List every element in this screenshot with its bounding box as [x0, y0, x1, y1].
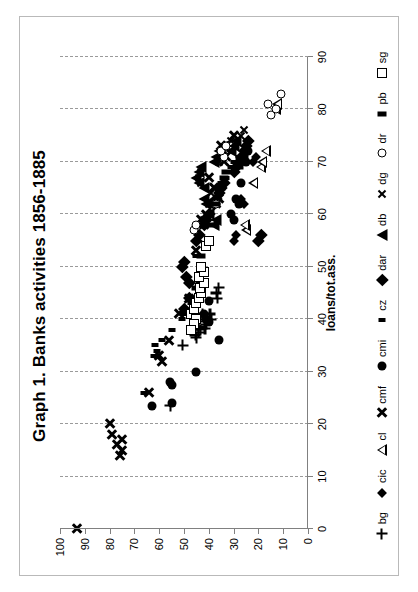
data-point-sg — [194, 293, 204, 303]
data-point-sg — [196, 288, 206, 298]
data-point-cz — [235, 155, 242, 159]
heavy-x-icon — [375, 407, 388, 420]
data-point-cmi — [167, 380, 176, 389]
data-point-dg — [219, 146, 229, 156]
x-axis-tick — [308, 318, 313, 319]
plus-icon — [375, 527, 388, 540]
data-point-dar — [203, 208, 215, 220]
y-axis-tick — [283, 529, 284, 534]
data-point-pb — [242, 149, 251, 154]
data-point-cmf — [218, 156, 230, 168]
filled-diamond-icon — [375, 274, 388, 287]
data-point-cz — [193, 254, 200, 258]
legend-label: cz — [376, 300, 388, 311]
data-point-dar — [242, 135, 254, 147]
data-point-db — [196, 161, 207, 173]
data-point-cic — [229, 236, 239, 246]
data-point-dr — [264, 100, 273, 109]
thin-x-icon — [375, 188, 388, 201]
data-point-dar — [198, 219, 210, 231]
data-point-cl — [240, 219, 250, 231]
x-axis-tick — [308, 528, 313, 529]
data-point-cz — [141, 391, 148, 395]
data-point-bg — [206, 314, 217, 325]
data-point-bg — [212, 293, 223, 304]
data-point-pb — [192, 285, 201, 290]
data-point-dr — [219, 152, 228, 161]
legend-item-pb[interactable]: pb — [375, 92, 388, 120]
open-triangle-icon — [375, 444, 388, 457]
legend-item-cz[interactable]: cz — [375, 300, 388, 327]
data-point-dr — [212, 199, 221, 208]
data-point-pb — [222, 170, 231, 175]
data-point-cz — [228, 165, 235, 169]
data-point-sg — [194, 272, 204, 282]
data-point-cmf — [215, 140, 227, 152]
data-point-db — [191, 172, 202, 184]
data-point-dar — [238, 145, 250, 157]
data-point-cmi — [234, 199, 243, 208]
data-point-db — [208, 219, 219, 231]
data-point-dg — [239, 125, 249, 135]
data-point-cmi — [214, 336, 223, 345]
legend-item-db[interactable]: db — [375, 214, 388, 242]
data-point-cmf — [111, 439, 123, 451]
x-axis-tick — [308, 108, 313, 109]
legend-label: dg — [376, 172, 388, 184]
data-point-cmf — [200, 208, 212, 220]
legend-item-dar[interactable]: dar — [375, 255, 388, 287]
gridline — [60, 161, 308, 162]
legend-item-sg[interactable]: sg — [375, 52, 388, 80]
data-point-cmf — [183, 292, 195, 304]
y-axis-tick — [209, 529, 210, 534]
data-point-cz — [181, 312, 188, 316]
data-point-cic — [248, 157, 258, 167]
y-axis-tick — [234, 529, 235, 534]
legend-item-cic[interactable]: cic — [375, 470, 388, 499]
chart-frame: Graph 1. Banks activities 1856-1885 0102… — [19, 16, 399, 576]
y-axis-tick-label: 20 — [252, 538, 264, 550]
data-point-dar — [183, 292, 195, 304]
y-axis-tick — [110, 529, 111, 534]
x-axis-title: loans/tot.ass. — [324, 57, 338, 529]
data-point-dar — [230, 161, 242, 173]
data-point-cmi — [167, 399, 176, 408]
y-axis-tick-label: 30 — [228, 538, 240, 550]
legend-label: bg — [376, 512, 388, 524]
y-axis-tick-label: 10 — [277, 538, 289, 550]
legend-item-cl[interactable]: cl — [375, 433, 388, 457]
legend-label: cmi — [376, 340, 388, 357]
data-point-pb — [197, 254, 206, 259]
data-point-cmi — [166, 378, 175, 387]
data-point-pb — [212, 201, 221, 206]
data-point-dar — [200, 214, 212, 226]
wide-rect-icon — [375, 108, 388, 121]
legend-item-cmi[interactable]: cmi — [375, 340, 388, 373]
y-axis-tick — [184, 529, 185, 534]
data-point-bg — [165, 400, 176, 411]
data-point-cz — [168, 328, 175, 332]
data-point-cz — [203, 223, 210, 227]
data-point-cmf — [143, 387, 155, 399]
legend-item-dg[interactable]: dg — [375, 172, 388, 200]
data-point-dg — [226, 136, 236, 146]
data-point-cmf — [71, 523, 83, 535]
data-point-cz — [188, 302, 195, 306]
data-point-dg — [196, 178, 206, 188]
data-point-sg — [189, 304, 199, 314]
data-point-cmi — [199, 309, 208, 318]
legend-item-cmf[interactable]: cmf — [375, 386, 388, 420]
legend-label: db — [376, 214, 388, 226]
data-point-bg — [193, 327, 204, 338]
data-point-dg — [194, 173, 204, 183]
data-point-cz — [218, 181, 225, 185]
data-point-cmf — [228, 130, 240, 142]
data-point-cmf — [114, 450, 126, 462]
data-point-dar — [183, 277, 195, 289]
data-point-pb — [217, 186, 226, 191]
legend-item-bg[interactable]: bg — [375, 512, 388, 540]
data-point-dr — [192, 220, 201, 229]
data-point-bg — [211, 288, 222, 299]
legend-item-dr[interactable]: dr — [375, 134, 388, 160]
data-point-cz — [153, 349, 160, 353]
